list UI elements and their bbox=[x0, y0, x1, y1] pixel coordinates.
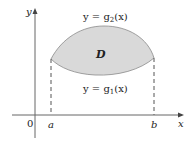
region-diagram: y x 0 a b D y = g2(x) y = g1(x) bbox=[0, 0, 192, 142]
bound-a-label: a bbox=[48, 119, 54, 130]
region-label: D bbox=[95, 48, 106, 61]
origin-label: 0 bbox=[27, 118, 33, 129]
y-axis-label: y bbox=[25, 6, 32, 17]
y-axis-arrow-icon bbox=[33, 8, 38, 14]
x-axis-label: x bbox=[178, 118, 184, 129]
x-axis-arrow-icon bbox=[178, 113, 184, 118]
lower-curve-label: y = g1(x) bbox=[82, 83, 128, 96]
upper-curve-label: y = g2(x) bbox=[82, 11, 128, 24]
bound-b-label: b bbox=[151, 119, 157, 130]
